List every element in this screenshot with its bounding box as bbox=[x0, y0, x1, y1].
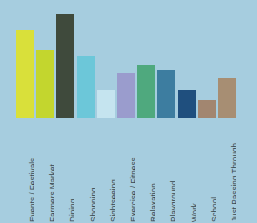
x-axis-tick-label-text: Playground bbox=[170, 181, 175, 222]
x-axis-tick-label: Sightseeing bbox=[97, 119, 115, 223]
x-axis-tick-label-text: Work bbox=[191, 203, 196, 222]
bar bbox=[56, 14, 74, 118]
x-axis-tick-label-text: Shopping bbox=[90, 187, 95, 222]
bar bbox=[178, 90, 196, 118]
x-axis-tick-label-text: Just Passing Through bbox=[231, 143, 236, 222]
x-axis-tick-label-text: Sightseeing bbox=[110, 179, 115, 222]
bar bbox=[16, 30, 34, 118]
bar bbox=[157, 70, 175, 118]
x-axis-tick-label: Just Passing Through bbox=[218, 119, 236, 223]
x-axis-tick-label-text: Events / Festivals bbox=[29, 158, 34, 222]
x-axis-tick-label: Shopping bbox=[77, 119, 95, 223]
x-axis-tick-label-text: Relaxation bbox=[150, 183, 155, 222]
x-axis-tick-label: Exercise / Fitness bbox=[117, 119, 135, 223]
x-axis-tick-label: Relaxation bbox=[137, 119, 155, 223]
x-axis-tick-label-text: Dining bbox=[69, 199, 74, 222]
x-axis-tick-label: Dining bbox=[56, 119, 74, 223]
x-axis-tick-label: Events / Festivals bbox=[16, 119, 34, 223]
x-axis-tick-label: Playground bbox=[157, 119, 175, 223]
bar-chart: Events / FestivalsFarmers MarketDiningSh… bbox=[0, 0, 257, 223]
x-axis-tick-label-text: Farmers Market bbox=[49, 164, 54, 222]
bar bbox=[198, 100, 216, 118]
plot-area: Events / FestivalsFarmers MarketDiningSh… bbox=[0, 0, 257, 223]
bar bbox=[218, 78, 236, 118]
x-axis-tick-label-text: Exercise / Fitness bbox=[130, 157, 135, 222]
x-axis-tick-label: Farmers Market bbox=[36, 119, 54, 223]
x-axis-tick-label-text: School bbox=[211, 197, 216, 222]
bar bbox=[36, 50, 54, 118]
x-axis-tick-label: School bbox=[198, 119, 216, 223]
bar bbox=[137, 65, 155, 118]
bar bbox=[117, 73, 135, 118]
x-axis-tick-label: Work bbox=[178, 119, 196, 223]
bar bbox=[97, 90, 115, 118]
bar bbox=[77, 56, 95, 118]
